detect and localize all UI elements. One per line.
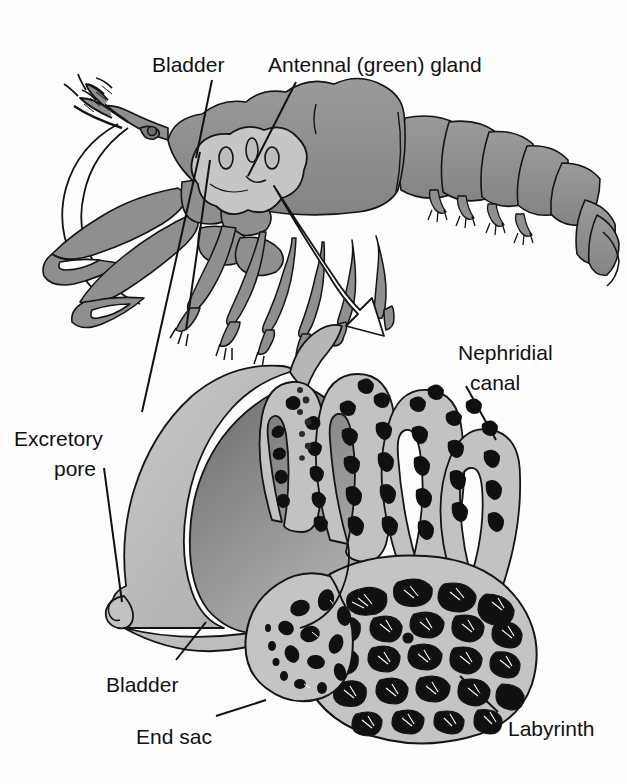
label-antennal-gland: Antennal (green) gland	[268, 53, 482, 76]
label-excretory-pore-line2: pore	[54, 457, 96, 480]
gland-vesicle	[219, 147, 233, 169]
label-labyrinth: Labyrinth	[508, 717, 594, 740]
anatomy-illustration: Bladder Antennal (green) gland Excretory…	[0, 0, 627, 784]
label-bladder-top: Bladder	[152, 53, 224, 76]
figure-crayfish-excretory-system: Bladder Antennal (green) gland Excretory…	[0, 0, 627, 784]
label-excretory-pore-line1: Excretory	[14, 427, 103, 450]
gland-vesicle	[265, 147, 279, 169]
label-bladder-bottom: Bladder	[106, 673, 178, 696]
label-end-sac: End sac	[136, 725, 212, 748]
eye	[148, 127, 157, 136]
label-nephridial-canal-line2: canal	[470, 371, 520, 394]
label-nephridial-canal-line1: Nephridial	[458, 341, 553, 364]
